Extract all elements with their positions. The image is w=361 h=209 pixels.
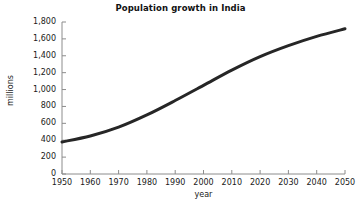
x-axis-tick-label: 2050 bbox=[328, 178, 361, 187]
y-axis-tick-label: 1,200 bbox=[14, 68, 56, 77]
y-axis-tick-label: 1,600 bbox=[14, 34, 56, 43]
y-axis-tick-label: 800 bbox=[14, 101, 56, 110]
y-axis-tick-label: 200 bbox=[14, 152, 56, 161]
population-growth-chart: Population growth in India millions year… bbox=[0, 0, 361, 209]
y-axis-tick-label: 1,400 bbox=[14, 51, 56, 60]
population-line-series bbox=[62, 29, 345, 142]
y-axis-tick-label: 0 bbox=[14, 169, 56, 178]
axis-lines bbox=[62, 22, 345, 174]
y-axis-tick-label: 1,000 bbox=[14, 85, 56, 94]
x-axis-ticks bbox=[62, 170, 345, 174]
y-axis-tick-label: 400 bbox=[14, 135, 56, 144]
y-axis-tick-label: 600 bbox=[14, 118, 56, 127]
y-axis-tick-label: 1,800 bbox=[14, 17, 56, 26]
y-axis-ticks bbox=[62, 22, 66, 174]
